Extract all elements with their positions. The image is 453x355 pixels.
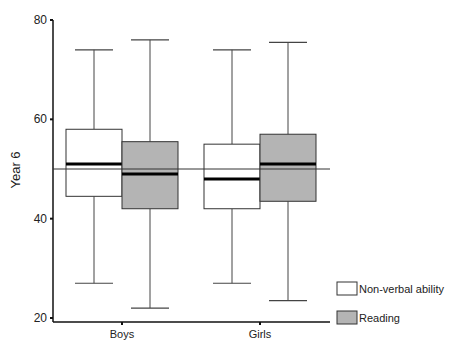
y-tick-label: 80 <box>34 13 48 27</box>
y-tick-label: 60 <box>34 112 48 126</box>
x-tick-label-boys: Boys <box>110 328 135 340</box>
y-tick-label: 20 <box>34 311 48 325</box>
y-axis-title: Year 6 <box>8 151 23 188</box>
box-girls-nonverbal <box>204 50 260 283</box>
y-tick-label: 40 <box>34 212 48 226</box>
legend-swatch <box>337 311 357 324</box>
legend-label: Non-verbal ability <box>359 283 444 295</box>
legend: Non-verbal abilityReading <box>337 282 444 324</box>
boxes <box>66 40 316 308</box>
boxplot-chart: 20406080 BoysGirls Year 6 Non-verbal abi… <box>0 0 453 355</box>
box-girls-reading <box>260 42 316 300</box>
legend-label: Reading <box>359 312 400 324</box>
x-ticks: BoysGirls <box>110 322 272 340</box>
x-tick-label-girls: Girls <box>249 328 272 340</box>
box-boys-reading <box>122 40 178 308</box>
box-boys-nonverbal <box>66 50 122 283</box>
legend-swatch <box>337 282 357 295</box>
y-ticks: 20406080 <box>34 13 53 325</box>
